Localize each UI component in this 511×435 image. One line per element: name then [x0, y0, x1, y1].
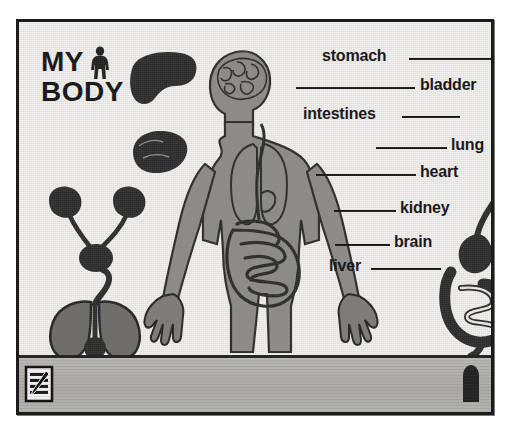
- label-heart[interactable]: heart: [420, 164, 458, 180]
- leader-bladder: [296, 87, 415, 89]
- title-line-1: MY: [41, 46, 84, 77]
- label-bladder[interactable]: bladder: [420, 77, 476, 93]
- drawing-canvas[interactable]: MY BODY: [19, 22, 491, 358]
- leader-heart: [316, 174, 416, 176]
- lungs-trachea-shape[interactable]: [41, 268, 149, 358]
- leader-liver: [371, 268, 441, 270]
- label-liver[interactable]: liver: [329, 258, 361, 274]
- app-root: MY BODY: [0, 0, 511, 435]
- leader-stomach: [409, 58, 491, 60]
- stomach-thumbnail-icon[interactable]: [460, 364, 482, 404]
- document-pencil-icon[interactable]: [25, 366, 53, 402]
- bottom-toolbar: [19, 355, 491, 412]
- human-body-diagram[interactable]: [141, 44, 371, 356]
- label-kidney[interactable]: kidney: [400, 200, 450, 216]
- human-figure-icon: [87, 46, 113, 84]
- leader-lung: [376, 147, 447, 149]
- leader-brain: [335, 244, 390, 246]
- leader-intestines: [402, 116, 460, 118]
- stomach-intestines-shape[interactable]: [437, 162, 491, 358]
- leader-kidney: [334, 210, 396, 212]
- drawing-window: MY BODY: [16, 19, 494, 415]
- label-brain[interactable]: brain: [394, 234, 432, 250]
- label-intestines[interactable]: intestines: [303, 106, 376, 122]
- label-lung[interactable]: lung: [451, 137, 484, 153]
- label-stomach[interactable]: stomach: [322, 48, 386, 64]
